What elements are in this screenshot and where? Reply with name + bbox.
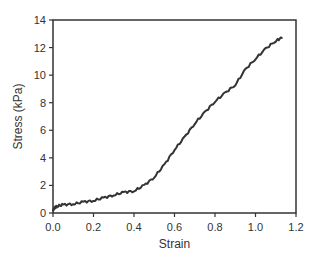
x-tick-label: 0.2 bbox=[86, 221, 101, 233]
stress-strain-chart: 02468101214 0.00.20.40.60.81.01.2 Strain… bbox=[0, 0, 321, 262]
y-tick-label: 6 bbox=[40, 124, 46, 136]
y-tick-label: 14 bbox=[34, 14, 46, 26]
x-axis-title: Strain bbox=[159, 237, 190, 251]
stress-strain-curve bbox=[53, 38, 282, 211]
plot-border bbox=[53, 20, 296, 213]
y-tick-label: 10 bbox=[34, 69, 46, 81]
y-tick-label: 12 bbox=[34, 42, 46, 54]
x-axis-ticks: 0.00.20.40.60.81.01.2 bbox=[45, 213, 303, 233]
plot-frame bbox=[53, 20, 296, 213]
x-tick-label: 0.0 bbox=[45, 221, 60, 233]
y-axis-title: Stress (kPa) bbox=[11, 83, 25, 149]
x-tick-label: 0.4 bbox=[126, 221, 141, 233]
y-tick-label: 0 bbox=[40, 207, 46, 219]
y-axis-ticks: 02468101214 bbox=[34, 14, 53, 219]
y-tick-label: 2 bbox=[40, 179, 46, 191]
x-tick-label: 1.0 bbox=[248, 221, 263, 233]
x-tick-label: 1.2 bbox=[288, 221, 303, 233]
x-tick-label: 0.8 bbox=[207, 221, 222, 233]
y-tick-label: 4 bbox=[40, 152, 46, 164]
y-tick-label: 8 bbox=[40, 97, 46, 109]
x-tick-label: 0.6 bbox=[167, 221, 182, 233]
